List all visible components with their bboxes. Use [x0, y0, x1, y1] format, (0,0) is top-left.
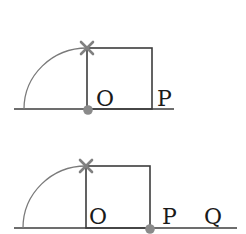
label-o: O [89, 204, 107, 229]
label-q: Q [204, 204, 222, 229]
point-marker-dot [83, 105, 93, 115]
arc [24, 48, 87, 109]
label-p: P [162, 204, 177, 229]
figure-bottom: O P Q [14, 160, 237, 234]
figure-top: O P [14, 42, 174, 115]
label-o: O [96, 86, 114, 111]
compass-construction-diagram: O P O P Q [0, 0, 246, 234]
arc [23, 166, 86, 228]
label-p: P [157, 86, 172, 111]
point-marker-dot [145, 224, 155, 234]
